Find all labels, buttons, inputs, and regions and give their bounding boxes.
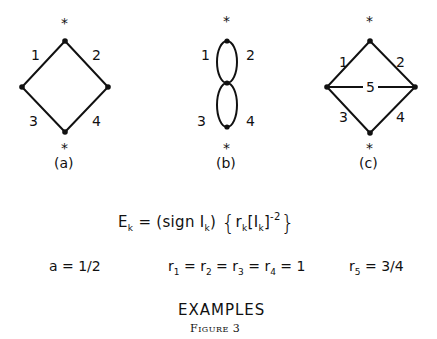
terminal-star-bottom: * — [366, 141, 373, 155]
r5-value: = 3/4 — [365, 258, 404, 274]
upper-loop — [217, 41, 237, 83]
param-a: a = 1/2 — [49, 259, 101, 273]
terminal-star-top: * — [61, 16, 68, 30]
edge-label-4: 4 — [396, 110, 405, 124]
edge-label-3: 3 — [197, 114, 206, 128]
r-sub-3: 3 — [238, 267, 244, 277]
lower-loop — [217, 83, 237, 127]
terminal-star-top: * — [366, 14, 373, 28]
diagram-caption-c: (c) — [359, 156, 378, 170]
examples-title: EXAMPLES — [178, 303, 265, 318]
formula-bracket-open: [I — [248, 213, 259, 231]
diagram-b-nodes — [224, 38, 229, 129]
formula-sign: (sign I — [156, 213, 204, 231]
formula-brace-open: { — [221, 210, 235, 235]
edge-label-3: 3 — [29, 114, 38, 128]
r-sub-4: 4 — [270, 267, 276, 277]
edge-label-1: 1 — [201, 48, 210, 62]
formula-lhs-sub: k — [128, 223, 134, 233]
formula-sign-close: ) — [210, 213, 216, 231]
r-sub-5: 5 — [355, 267, 361, 277]
figure-caption: Figure 3 — [190, 323, 240, 334]
param-r5: r5 = 3/4 — [349, 259, 404, 277]
edge-label-5: 5 — [366, 80, 375, 94]
diagram-caption-a: (a) — [54, 156, 74, 170]
edge-label-4: 4 — [246, 114, 255, 128]
terminal-star-bottom: * — [61, 141, 68, 155]
formula-lhs: E — [118, 213, 128, 231]
edge-label-2: 2 — [396, 55, 405, 69]
r-sub-1: 1 — [174, 267, 180, 277]
r-value: 1 — [297, 258, 306, 274]
edge-label-4: 4 — [92, 114, 101, 128]
edge-label-2: 2 — [92, 48, 101, 62]
edge-label-3: 3 — [339, 110, 348, 124]
edge-label-1: 1 — [31, 48, 40, 62]
energy-formula: Ek = (sign Ik) {rk[Ik]-2} — [118, 212, 295, 234]
formula-brace-close: } — [281, 210, 295, 235]
formula-exponent: -2 — [270, 211, 281, 222]
r-sub-2: 2 — [206, 267, 212, 277]
diagram-caption-b: (b) — [216, 156, 236, 170]
formula-equals: = — [138, 213, 151, 231]
edge-label-1: 1 — [339, 55, 348, 69]
terminal-star-top: * — [223, 14, 230, 28]
terminal-star-bottom: * — [223, 141, 230, 155]
param-r-equal: r1 = r2 = r3 = r4 = 1 — [168, 259, 305, 277]
edge-label-2: 2 — [246, 48, 255, 62]
